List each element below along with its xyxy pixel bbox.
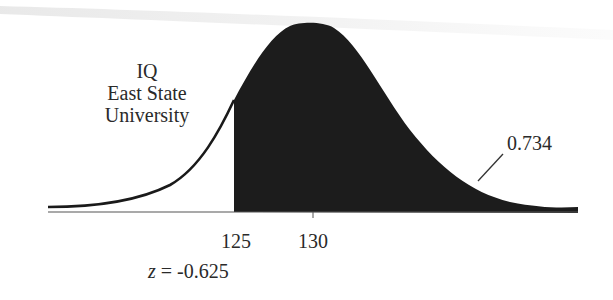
shaded-region <box>234 23 578 213</box>
x-tick-label-130: 130 <box>298 230 328 252</box>
z-value: = -0.625 <box>156 260 229 282</box>
shaded-area-label: 0.734 <box>507 132 552 154</box>
normal-distribution-figure: IQ East State University 0.734 125 130 z… <box>0 0 613 300</box>
area-label-leader-line <box>478 154 503 181</box>
z-variable: z <box>147 260 156 282</box>
z-score-label: z = -0.625 <box>147 260 229 282</box>
x-tick-label-125: 125 <box>221 230 251 252</box>
figure-title-line-3: University <box>105 104 189 127</box>
figure-title-line-1: IQ <box>136 60 158 82</box>
figure-title-line-2: East State <box>107 82 187 104</box>
